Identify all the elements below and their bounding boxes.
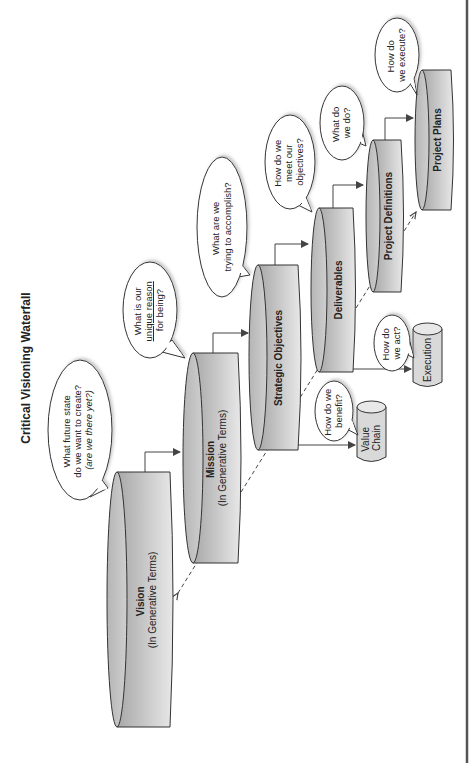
bubble-execution-line1: How do <box>380 328 391 360</box>
bubble-deliverables-line1: How do we <box>272 140 283 187</box>
cylinder-project-plans[interactable]: Project Plans <box>415 70 454 210</box>
bubble-vision-line3: (are we there yet?) <box>83 390 94 470</box>
bubble-vision-line1: What future state <box>61 395 72 467</box>
mission-sub: (In Generative Terms) <box>217 410 228 507</box>
svg-text:Value Chain: Value Chain <box>360 424 382 452</box>
bubble-mission-line1: What is our <box>132 287 143 335</box>
bubble-execution-line2: we act? <box>391 327 402 361</box>
diagram-title: Critical Visioning Waterfall <box>19 292 33 443</box>
cylinder-execution[interactable]: Execution <box>413 323 442 387</box>
bubble-value-chain-line2: benefit? <box>333 394 344 428</box>
bubble-mission-line3: for being? <box>154 289 165 331</box>
strategic-label: Strategic Objectives <box>273 309 284 406</box>
bubble-project-definitions-line1: What do <box>330 107 341 142</box>
bubble-vision-line2: do we want to create? <box>72 385 83 478</box>
bubble-deliverables-line3: objectives? <box>294 138 305 186</box>
vision-label: Vision <box>135 586 146 616</box>
svg-text:How do we meet our obj: How do we meet our objectives? <box>272 137 305 187</box>
vision-sub: (In Generative Terms) <box>147 552 158 649</box>
svg-text:What future state do we wa: What future state do we want to create? … <box>61 382 94 478</box>
value-chain-line1: Value <box>360 427 371 452</box>
cylinder-vision[interactable]: Vision (In Generative Terms) <box>107 472 173 727</box>
cylinder-deliverables[interactable]: Deliverables <box>311 208 356 372</box>
bubble-strategic-line2: trying to accomplish? <box>222 182 233 271</box>
svg-text:What do we do?: What do we do? <box>330 104 352 142</box>
cylinder-project-definitions[interactable]: Project Definitions <box>366 140 404 292</box>
execution-label: Execution <box>422 338 433 382</box>
cylinder-value-chain[interactable]: Value Chain <box>357 401 386 462</box>
cylinder-strategic-objectives[interactable]: Strategic Objectives <box>249 265 301 450</box>
svg-text:How do we act?: How do we act? <box>380 326 402 361</box>
bubble-value-chain-line1: How do we <box>322 389 333 436</box>
deliverables-label: Deliverables <box>333 260 344 319</box>
project-plans-label: Project Plans <box>432 108 443 172</box>
bubble-strategic-line1: What are we <box>210 202 221 255</box>
bubble-mission-line2: unique reason <box>143 281 154 341</box>
bubble-project-definitions-line2: we do? <box>341 108 352 140</box>
waterfall-diagram: Critical Visioning Waterfall Vision (In … <box>0 0 474 775</box>
project-definitions-label: Project Definitions <box>383 171 394 260</box>
value-chain-line2: Chain <box>371 425 382 451</box>
cylinder-mission[interactable]: Mission (In Generative Terms) <box>183 353 241 563</box>
bubble-deliverables-line2: meet our <box>283 145 294 183</box>
mission-label: Mission <box>205 441 216 478</box>
bubble-project-plans-line2: we execute? <box>396 28 407 82</box>
bubble-project-plans-line1: How do <box>385 40 396 72</box>
